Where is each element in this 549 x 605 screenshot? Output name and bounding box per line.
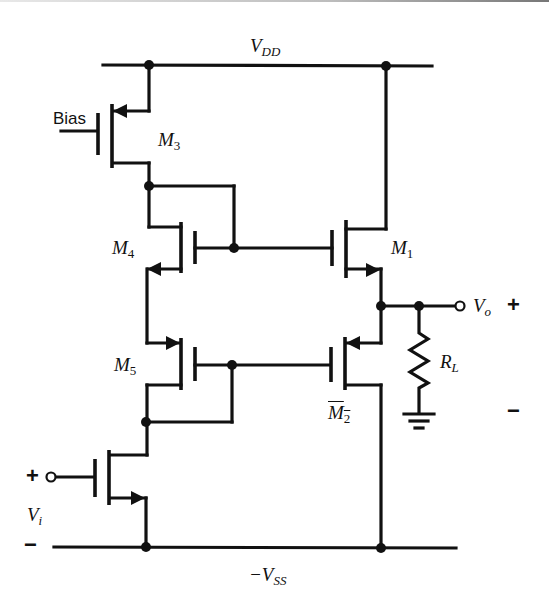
vi-label-main: V xyxy=(27,504,39,525)
output-terminal-icon xyxy=(456,302,465,311)
output-node-a xyxy=(376,301,386,311)
m3-label-sub: 3 xyxy=(174,138,181,153)
schematic-wires xyxy=(0,0,549,605)
transistor-m5 xyxy=(147,336,330,455)
rl-label: RL xyxy=(440,352,459,374)
m2-label-main: M xyxy=(328,402,344,423)
m2-label-sub: 2 xyxy=(344,411,351,426)
m4-label: M4 xyxy=(112,238,134,260)
m5-source-arrow-icon xyxy=(166,336,180,350)
transistor-input xyxy=(56,450,147,547)
rl-label-sub: L xyxy=(452,360,459,375)
circuit-diagram: VDD −VSS Bias M3 M4 M5 M1 M2 RL Vo + − +… xyxy=(0,0,549,605)
vi-label-sub: i xyxy=(39,513,43,528)
vi-label: Vi xyxy=(27,505,42,527)
vdd-label: VDD xyxy=(250,36,280,58)
m2-label: M2 xyxy=(328,403,350,425)
vss-node-m2 xyxy=(376,543,386,553)
ground-icon xyxy=(404,414,434,428)
input-source-arrow-icon xyxy=(131,491,145,505)
vss-rail xyxy=(54,547,456,548)
vdd-label-main: V xyxy=(250,35,262,56)
m4-label-sub: 4 xyxy=(128,246,135,261)
vss-label-main: −V xyxy=(249,564,273,585)
vdd-node-m1 xyxy=(381,61,391,71)
vo-label-sub: o xyxy=(485,304,492,319)
transistor-m1 xyxy=(332,66,386,306)
rl-label-main: R xyxy=(440,351,452,372)
vss-label-sub: SS xyxy=(273,573,286,588)
m5-label: M5 xyxy=(114,355,136,377)
vo-plus-sign: + xyxy=(507,294,520,316)
vss-node-input xyxy=(141,542,151,552)
input-terminal-icon xyxy=(47,473,56,482)
m4-label-main: M xyxy=(112,237,128,258)
m1-label-sub: 1 xyxy=(407,246,414,261)
m5-label-sub: 5 xyxy=(130,363,137,378)
m3-label: M3 xyxy=(158,130,180,152)
m5-label-main: M xyxy=(114,354,130,375)
transistor-m4 xyxy=(147,186,332,343)
bias-label: Bias xyxy=(53,110,86,127)
vdd-node-m3 xyxy=(144,60,154,70)
m3-source-arrow-icon xyxy=(113,104,127,118)
vo-label-main: V xyxy=(473,295,485,316)
m1-source-arrow-icon xyxy=(366,263,380,277)
m3-label-main: M xyxy=(158,129,174,150)
m1-label-main: M xyxy=(391,237,407,258)
vo-label: Vo xyxy=(473,296,491,318)
vo-minus-sign: − xyxy=(507,400,520,422)
lower-gate-node xyxy=(227,360,237,370)
m4-source-arrow-icon xyxy=(147,262,161,276)
vi-minus-sign: − xyxy=(24,534,37,556)
upper-gate-node xyxy=(229,243,239,253)
m1-label: M1 xyxy=(391,238,413,260)
m5-drain-node xyxy=(141,417,151,427)
transistor-m2 xyxy=(331,306,381,548)
load-resistor xyxy=(410,306,428,413)
m2-source-arrow-icon xyxy=(346,336,360,350)
vi-plus-sign: + xyxy=(26,465,39,487)
vdd-label-sub: DD xyxy=(262,44,281,59)
vss-label: −VSS xyxy=(249,565,286,587)
